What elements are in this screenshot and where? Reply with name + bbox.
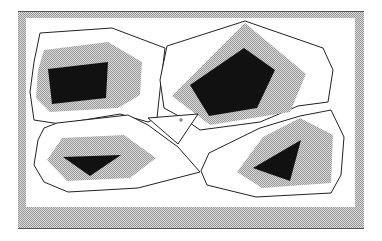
region-top-left bbox=[30, 28, 165, 124]
diagram-canvas bbox=[0, 0, 382, 241]
obstacle bbox=[48, 62, 108, 104]
